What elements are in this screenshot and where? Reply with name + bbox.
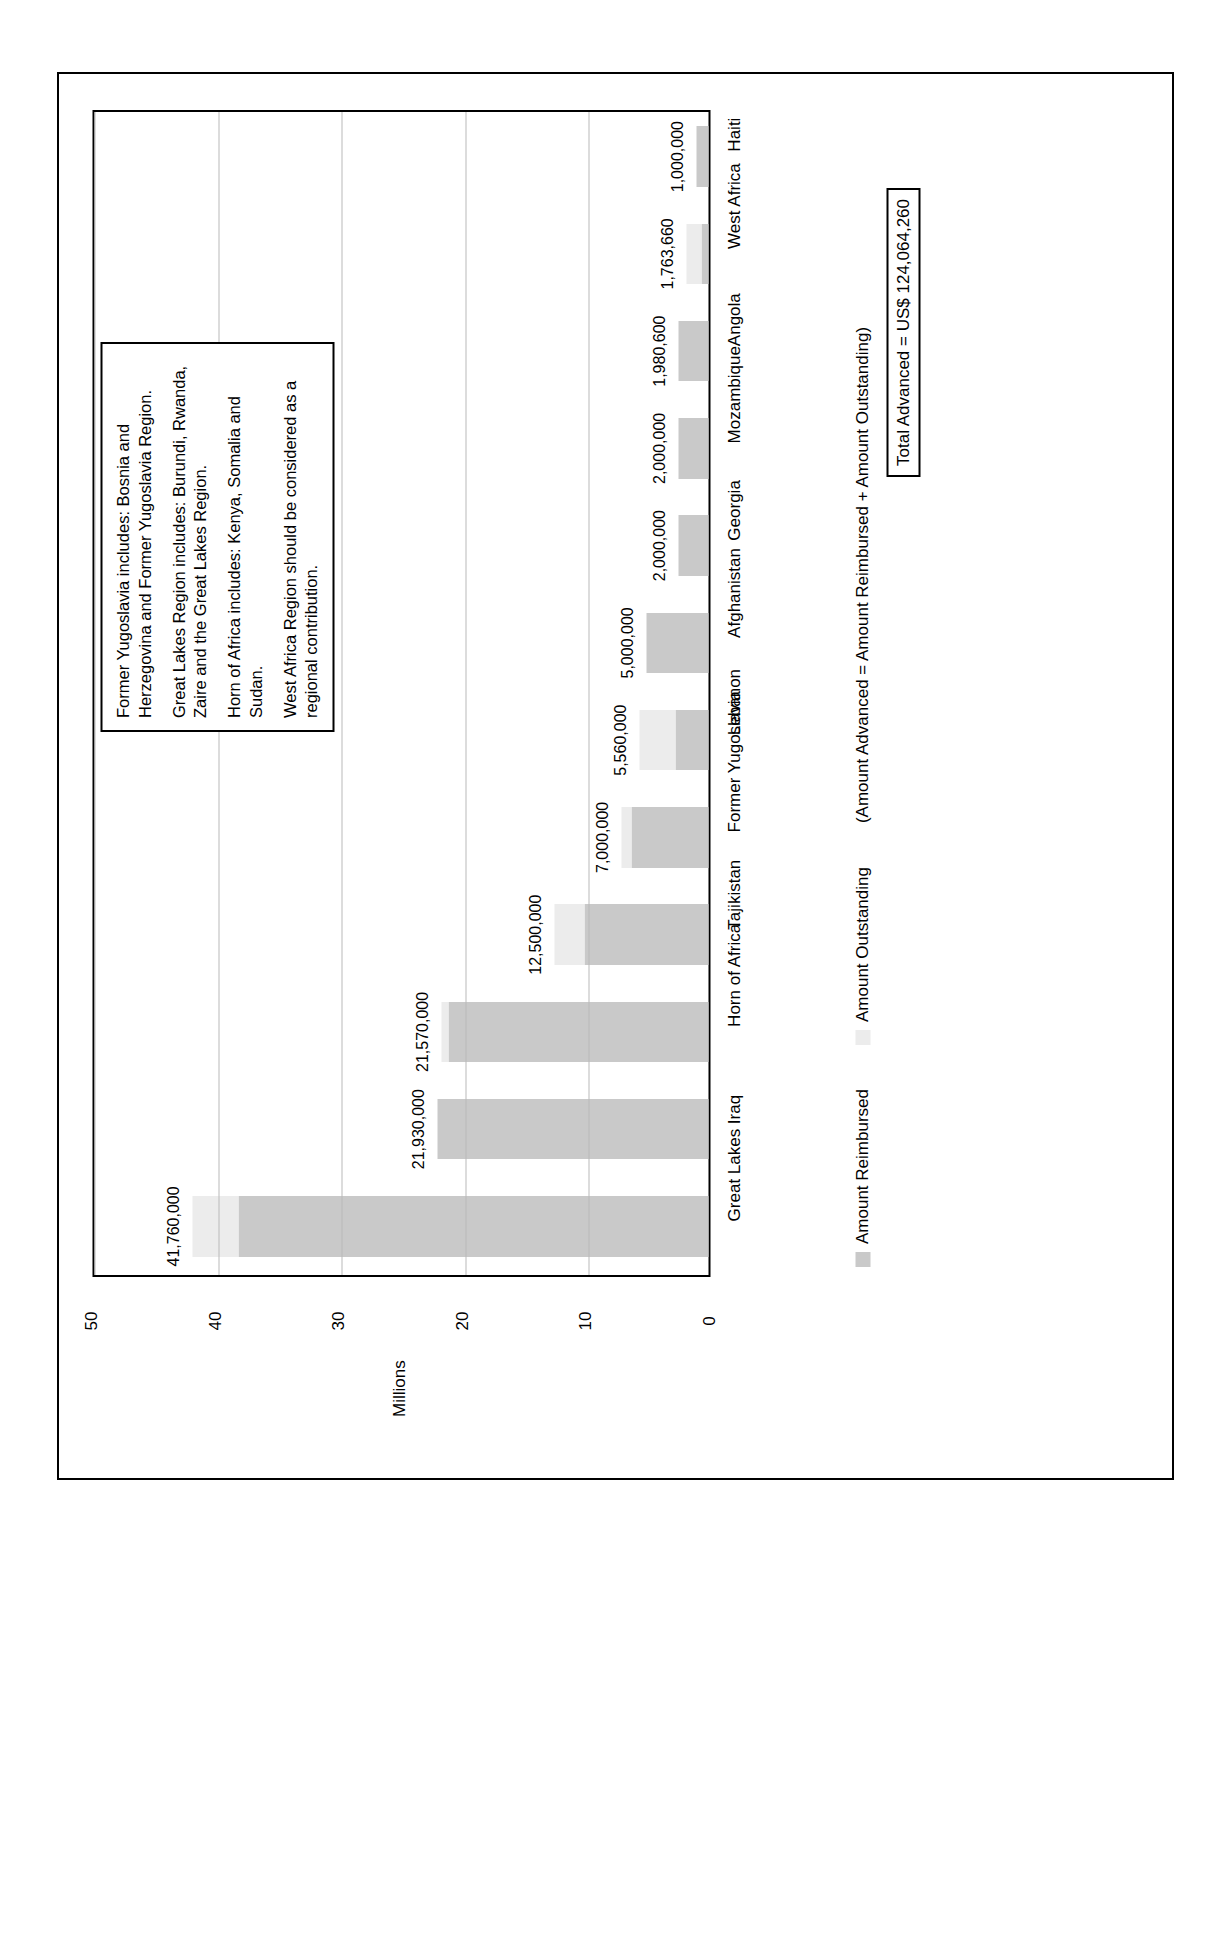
- chart-legend: Amount Reimbursed Amount Outstanding (Am…: [852, 327, 872, 1267]
- bar-segment-outstanding: [621, 807, 630, 867]
- rotated-chart-wrapper: Millions 41,760,00021,930,00021,570,0001…: [57, 72, 1174, 1480]
- bar-value-label: 2,000,000: [650, 413, 668, 484]
- legend-swatch-reimbursed: [855, 1252, 870, 1267]
- legend-swatch-outstanding: [855, 1030, 870, 1045]
- x-category-label: Georgia: [724, 480, 744, 540]
- bar-segment-outstanding: [192, 1196, 238, 1256]
- legend-item-outstanding: Amount Outstanding: [852, 867, 872, 1045]
- bar-group: 1,763,660: [90, 224, 708, 284]
- x-category-label: Iraq: [724, 1095, 744, 1124]
- bar-value-label: 1,000,000: [668, 121, 686, 192]
- x-category-label: Great Lakes: [724, 1129, 744, 1222]
- legend-note: (Amount Advanced = Amount Reimbursed + A…: [852, 327, 872, 823]
- annotation-line: Former Yugoslavia includes: Bosnia and H…: [112, 356, 156, 718]
- bar-segment-outstanding: [441, 1002, 448, 1062]
- y-tick-label: 0: [699, 1291, 719, 1351]
- bar-segment-reimbursed: [437, 1099, 708, 1159]
- chart-canvas: Millions 41,760,00021,930,00021,570,0001…: [57, 72, 1174, 1480]
- annotation-line: Great Lakes Region includes: Burundi, Rw…: [168, 356, 212, 718]
- bar-value-label: 2,000,000: [650, 510, 668, 581]
- y-tick-label: 40: [205, 1291, 225, 1351]
- legend-label-reimbursed: Amount Reimbursed: [852, 1089, 872, 1244]
- bar-value-label: 7,000,000: [593, 802, 611, 873]
- bar-value-label: 5,000,000: [618, 607, 636, 678]
- bar-segment-reimbursed: [678, 516, 708, 576]
- annotation-line: Horn of Africa includes: Kenya, Somalia …: [223, 356, 267, 718]
- bar-group: 1,000,000: [90, 127, 708, 187]
- x-category-label: Horn of Africa: [724, 924, 744, 1027]
- x-category-label: Haiti: [724, 118, 744, 152]
- bar-value-label: 21,930,000: [409, 1089, 427, 1169]
- x-category-label: Angola: [724, 293, 744, 346]
- bar-group: 7,000,000: [90, 807, 708, 867]
- bar-segment-outstanding: [686, 224, 700, 284]
- bar-value-label: 1,980,600: [650, 316, 668, 387]
- bar-value-label: 12,500,000: [526, 895, 544, 975]
- x-category-label: Afghanistan: [724, 548, 744, 638]
- bar-segment-reimbursed: [646, 613, 708, 673]
- annotation-line: West Africa Region should be considered …: [279, 356, 323, 718]
- bar-segment-reimbursed: [678, 321, 708, 381]
- bar-segment-reimbursed: [701, 224, 708, 284]
- bar-segment-reimbursed: [678, 418, 708, 478]
- gridline: [341, 112, 342, 1275]
- bar-segment-outstanding: [554, 905, 585, 965]
- bar-segment-reimbursed: [584, 905, 708, 965]
- bar-value-label: 21,570,000: [413, 992, 431, 1072]
- bar-value-label: 1,763,660: [658, 218, 676, 289]
- bar-group: 21,930,000: [90, 1099, 708, 1159]
- gridline: [94, 112, 95, 1275]
- y-tick-label: 50: [81, 1291, 101, 1351]
- bar-segment-reimbursed: [238, 1196, 708, 1256]
- x-category-label: Mozambique: [724, 346, 744, 443]
- total-advanced-box: Total Advanced = US$ 124,064,260: [886, 188, 920, 477]
- legend-label-outstanding: Amount Outstanding: [852, 867, 872, 1022]
- bar-value-label: 5,560,000: [611, 705, 629, 776]
- bar-value-label: 41,760,000: [164, 1186, 182, 1266]
- legend-item-reimbursed: Amount Reimbursed: [852, 1089, 872, 1267]
- bar-group: 12,500,000: [90, 905, 708, 965]
- y-tick-label: 20: [452, 1291, 472, 1351]
- x-category-label: West Africa: [724, 163, 744, 249]
- x-category-label: Lebanon: [724, 669, 744, 735]
- x-category-label: Tajikistan: [724, 860, 744, 930]
- bar-group: 41,760,000: [90, 1196, 708, 1256]
- bar-segment-reimbursed: [631, 807, 708, 867]
- bar-segment-reimbursed: [675, 710, 708, 770]
- gridline: [588, 112, 589, 1275]
- y-tick-label: 10: [575, 1291, 595, 1351]
- y-axis-title: Millions: [389, 1360, 409, 1417]
- gridline: [465, 112, 466, 1275]
- bar-group: 21,570,000: [90, 1002, 708, 1062]
- annotation-note: Former Yugoslavia includes: Bosnia and H…: [100, 342, 334, 732]
- bar-segment-outstanding: [639, 710, 674, 770]
- y-tick-label: 30: [328, 1291, 348, 1351]
- bar-segment-reimbursed: [696, 127, 708, 187]
- bar-segment-reimbursed: [448, 1002, 708, 1062]
